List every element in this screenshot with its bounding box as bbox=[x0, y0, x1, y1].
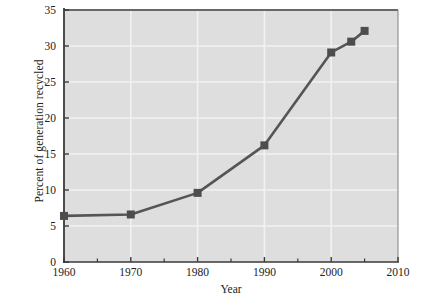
plot-canvas bbox=[0, 0, 425, 305]
x-tick-label: 1970 bbox=[101, 266, 161, 278]
x-tick-label: 2010 bbox=[368, 266, 425, 278]
x-tick-label: 1980 bbox=[168, 266, 228, 278]
x-axis-tick-labels: 196019701980199020002010 bbox=[0, 266, 425, 284]
x-axis-title: Year bbox=[64, 283, 398, 295]
x-tick-label: 2000 bbox=[301, 266, 361, 278]
x-tick-label: 1960 bbox=[34, 266, 94, 278]
scan-artifact bbox=[8, 288, 38, 300]
plot-background bbox=[64, 10, 398, 262]
chart-figure: Percent of generation recycled 051015202… bbox=[0, 0, 425, 305]
x-tick-label: 1990 bbox=[234, 266, 294, 278]
